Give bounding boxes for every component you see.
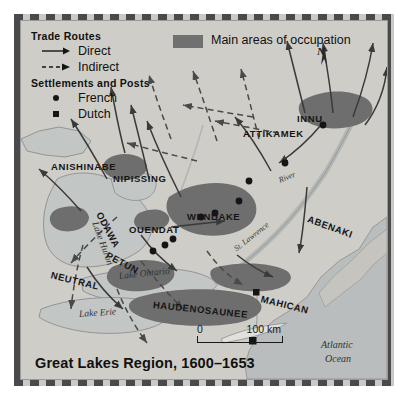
- legend-item-occupation: Main areas of occupation: [173, 33, 351, 48]
- legend-item-dutch: Dutch: [41, 107, 150, 121]
- circle-marker-icon: [41, 95, 71, 101]
- water-label: Ocean: [325, 353, 351, 364]
- solid-arrow-icon: [41, 45, 71, 57]
- square-marker-icon: [41, 111, 71, 117]
- legend-item-french: French: [41, 91, 150, 105]
- legend-label-occupation: Main areas of occupation: [211, 33, 351, 48]
- legend-item-indirect: Indirect: [41, 60, 150, 74]
- water-label: Atlantic: [321, 339, 353, 350]
- legend-label-french: French: [78, 91, 117, 105]
- map-figure: Trade Routes Direct: [0, 0, 408, 406]
- nation-label: OUENDAT: [129, 224, 179, 235]
- nation-label: INNU: [297, 113, 323, 124]
- nation-label: ATTIKAMEK: [243, 128, 304, 139]
- legend-label-dutch: Dutch: [78, 107, 111, 121]
- map-inner-panel: Trade Routes Direct: [20, 20, 388, 380]
- nation-label: ANISHINABE: [51, 161, 116, 172]
- legend-heading-settlements: Settlements and Posts: [31, 77, 150, 89]
- legend-item-direct: Direct: [41, 44, 150, 58]
- scale-start-label: 0: [197, 323, 203, 335]
- map-decorative-frame: Trade Routes Direct: [14, 14, 394, 386]
- legend-label-indirect: Indirect: [78, 60, 119, 74]
- scale-bar: 0 100 km: [197, 323, 283, 343]
- nation-label: NIPISSING: [113, 173, 166, 184]
- legend-heading-trade-routes: Trade Routes: [31, 30, 150, 42]
- dashed-arrow-icon: [41, 61, 71, 73]
- scale-end-label: 100 km: [247, 323, 281, 335]
- map-legend: Trade Routes Direct: [31, 27, 150, 123]
- nation-label: WENDAKE: [187, 211, 240, 222]
- legend-label-direct: Direct: [78, 44, 111, 58]
- page-title: Great Lakes Region, 1600–1653: [35, 355, 255, 371]
- occupation-swatch-icon: [173, 35, 203, 48]
- scale-rule: [197, 336, 283, 343]
